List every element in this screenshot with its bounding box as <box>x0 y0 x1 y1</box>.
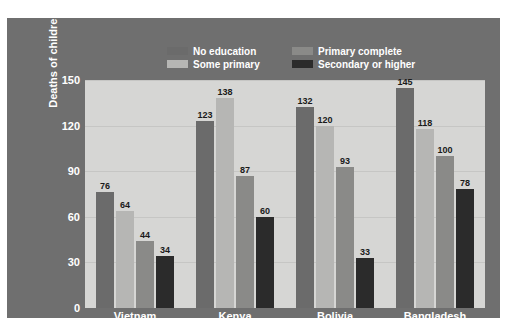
y-axis-tick-label: 150 <box>62 74 80 86</box>
bar-wrapper: 64 <box>116 80 134 308</box>
bar[interactable]: 44 <box>136 241 154 308</box>
legend-label-no-education: No education <box>193 46 256 57</box>
bar[interactable]: 132 <box>296 107 314 308</box>
bar-value-label: 78 <box>456 178 474 188</box>
bar-wrapper: 93 <box>336 80 354 308</box>
bar[interactable]: 145 <box>396 88 414 308</box>
bar-wrapper: 138 <box>216 80 234 308</box>
bars-layer: 766444341231388760132120933314511810078 <box>85 80 485 308</box>
chart-legend: No education Some primary Primary comple… <box>167 45 402 71</box>
bar[interactable]: 93 <box>336 167 354 308</box>
legend-item-no-education: No education <box>167 45 260 57</box>
bar[interactable]: 123 <box>196 121 214 308</box>
bar-group: 1231388760 <box>196 80 274 308</box>
chart-panel: No education Some primary Primary comple… <box>7 18 500 318</box>
y-axis-tick-label: 90 <box>68 165 80 177</box>
bar-wrapper: 60 <box>256 80 274 308</box>
bar[interactable]: 64 <box>116 211 134 308</box>
bar[interactable]: 120 <box>316 126 334 308</box>
legend-label-some-primary: Some primary <box>193 59 260 70</box>
bar-wrapper: 44 <box>136 80 154 308</box>
bar-wrapper: 76 <box>96 80 114 308</box>
legend-column-right: Primary complete Secondary or higher <box>292 45 415 71</box>
bar[interactable]: 138 <box>216 98 234 308</box>
bar-value-label: 100 <box>436 145 454 155</box>
bar-wrapper: 132 <box>296 80 314 308</box>
bar[interactable]: 78 <box>456 189 474 308</box>
bar-wrapper: 33 <box>356 80 374 308</box>
bar-value-label: 64 <box>116 200 134 210</box>
bar-value-label: 60 <box>256 206 274 216</box>
bar-wrapper: 145 <box>396 80 414 308</box>
bar-wrapper: 78 <box>456 80 474 308</box>
legend-column-left: No education Some primary <box>167 45 260 71</box>
y-axis-title: Deaths of children under age 5 per 1,000… <box>47 0 73 116</box>
y-axis-tick-label: 30 <box>68 256 80 268</box>
legend-label-secondary-or-higher: Secondary or higher <box>318 59 415 70</box>
bar-value-label: 132 <box>296 96 314 106</box>
bar-wrapper: 123 <box>196 80 214 308</box>
y-axis-tick-label: 120 <box>62 120 80 132</box>
bar-wrapper: 34 <box>156 80 174 308</box>
bar[interactable]: 60 <box>256 217 274 308</box>
bar-group: 76644434 <box>96 80 174 308</box>
bar-value-label: 93 <box>336 156 354 166</box>
x-axis-label: Bolivia <box>317 310 353 322</box>
y-axis-tick-label: 0 <box>74 302 80 314</box>
x-axis-label: Kenya <box>218 310 251 322</box>
bar-group: 1321209333 <box>296 80 374 308</box>
legend-swatch-primary-complete <box>292 47 313 55</box>
bar-value-label: 33 <box>356 247 374 257</box>
plot-area: Deaths of children under age 5 per 1,000… <box>85 80 485 308</box>
bar-wrapper: 118 <box>416 80 434 308</box>
legend-label-primary-complete: Primary complete <box>318 46 402 57</box>
bar[interactable]: 34 <box>156 256 174 308</box>
legend-swatch-no-education <box>167 47 188 55</box>
bar[interactable]: 33 <box>356 258 374 308</box>
bar-value-label: 76 <box>96 181 114 191</box>
bar-wrapper: 87 <box>236 80 254 308</box>
bar-value-label: 44 <box>136 230 154 240</box>
bar-group: 14511810078 <box>396 80 474 308</box>
x-axis-label: Bangladesh <box>404 310 466 322</box>
bar[interactable]: 118 <box>416 129 434 308</box>
bar-value-label: 120 <box>316 115 334 125</box>
bar-value-label: 87 <box>236 165 254 175</box>
bar-wrapper: 120 <box>316 80 334 308</box>
legend-swatch-some-primary <box>167 60 188 68</box>
bar-value-label: 118 <box>416 118 434 128</box>
bar-value-label: 138 <box>216 87 234 97</box>
bar-wrapper: 100 <box>436 80 454 308</box>
x-axis-label: Vietnam <box>114 310 157 322</box>
bar[interactable]: 100 <box>436 156 454 308</box>
bar-value-label: 34 <box>156 245 174 255</box>
legend-item-some-primary: Some primary <box>167 58 260 70</box>
bar-value-label: 145 <box>396 77 414 87</box>
bar[interactable]: 76 <box>96 192 114 308</box>
legend-swatch-secondary-or-higher <box>292 60 313 68</box>
y-axis-tick-label: 60 <box>68 211 80 223</box>
bar[interactable]: 87 <box>236 176 254 308</box>
bar-value-label: 123 <box>196 110 214 120</box>
legend-item-primary-complete: Primary complete <box>292 45 415 57</box>
legend-item-secondary-or-higher: Secondary or higher <box>292 58 415 70</box>
